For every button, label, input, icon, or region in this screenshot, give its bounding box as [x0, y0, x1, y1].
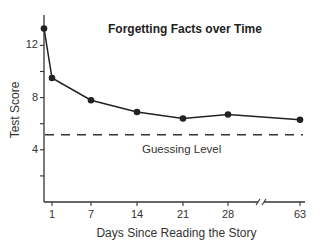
- data-point: [297, 116, 304, 123]
- data-point: [88, 97, 95, 104]
- data-point: [134, 109, 141, 116]
- guessing-level-annotation: Guessing Level: [142, 143, 221, 155]
- x-axis-label: Days Since Reading the Story: [0, 226, 323, 240]
- chart-title: Forgetting Facts over Time: [108, 22, 262, 36]
- x-tick-label: 7: [88, 208, 94, 220]
- y-tick-label: 12: [26, 38, 38, 50]
- data-point: [180, 115, 187, 122]
- y-axis-label: Test Score: [8, 82, 22, 139]
- x-tick-label: 28: [222, 208, 234, 220]
- data-point: [41, 25, 48, 32]
- chart-container: Forgetting Facts over Time Test Score Da…: [0, 0, 323, 248]
- y-tick-label: 8: [32, 91, 38, 103]
- data-point: [49, 75, 56, 82]
- x-tick-label: 14: [131, 208, 143, 220]
- x-tick-label: 63: [294, 208, 306, 220]
- y-tick-label: 4: [32, 143, 38, 155]
- x-tick-label: 1: [49, 208, 55, 220]
- data-line: [44, 28, 300, 119]
- x-tick-label: 21: [177, 208, 189, 220]
- data-point: [225, 111, 232, 118]
